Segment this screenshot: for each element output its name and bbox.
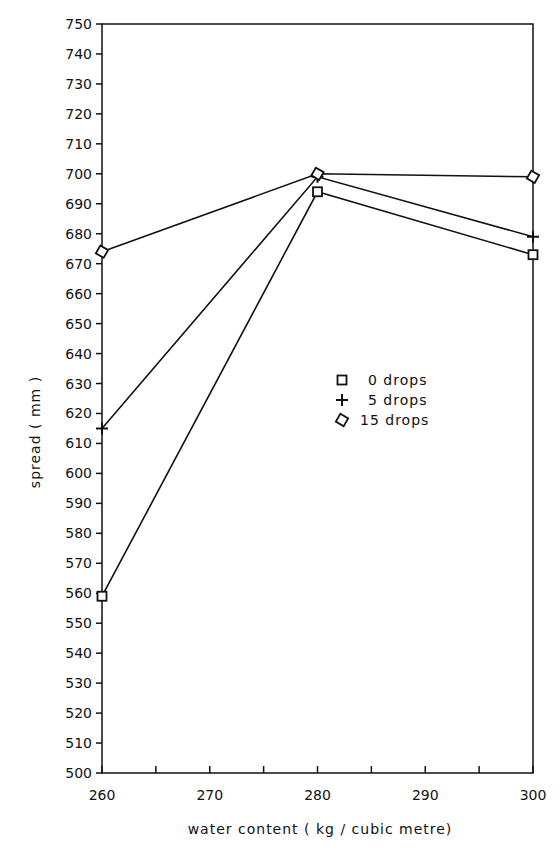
line-chart: 5005105205305405505605705805906006106206… — [0, 0, 560, 860]
legend: 0 drops5 drops15 drops — [336, 372, 430, 428]
plus-marker — [336, 394, 348, 406]
series-5-drops — [102, 177, 533, 429]
y-tick-label: 600 — [65, 465, 92, 481]
series-15-drops — [102, 174, 533, 252]
y-tick-label: 710 — [65, 136, 92, 152]
y-tick-label: 640 — [65, 346, 92, 362]
legend-label: 5 drops — [368, 392, 427, 408]
axes — [102, 24, 533, 773]
x-tick-label: 300 — [520, 787, 547, 803]
y-tick-label: 730 — [65, 76, 92, 92]
y-tick-label: 630 — [65, 376, 92, 392]
y-tick-label: 580 — [65, 525, 92, 541]
x-axis-title: water content ( kg / cubic metre) — [188, 821, 453, 837]
y-tick-label: 660 — [65, 286, 92, 302]
x-tick-label: 260 — [89, 787, 116, 803]
series-line — [102, 174, 533, 252]
y-tick-label: 680 — [65, 226, 92, 242]
legend-item: 5 drops — [336, 392, 427, 408]
y-tick-label: 500 — [65, 765, 92, 781]
y-tick-label: 590 — [65, 495, 92, 511]
plus-marker — [527, 231, 539, 243]
y-tick-label: 530 — [65, 675, 92, 691]
y-tick-label: 620 — [65, 405, 92, 421]
diamond-marker — [527, 171, 539, 183]
square-marker — [529, 250, 538, 259]
series-markers — [98, 187, 538, 600]
series-line — [102, 192, 533, 596]
y-tick-label: 570 — [65, 555, 92, 571]
y-tick-label: 510 — [65, 735, 92, 751]
y-tick-label: 520 — [65, 705, 92, 721]
x-tick-label: 280 — [304, 787, 331, 803]
y-tick-label: 610 — [65, 435, 92, 451]
y-axis-ticks: 5005105205305405505605705805906006106206… — [65, 16, 102, 781]
x-tick-label: 270 — [196, 787, 223, 803]
x-axis-ticks: 260270280290300 — [89, 766, 547, 803]
y-axis-title: spread ( mm ) — [27, 376, 43, 488]
y-tick-label: 670 — [65, 256, 92, 272]
y-tick-label: 740 — [65, 46, 92, 62]
series-line — [102, 177, 533, 429]
y-tick-label: 700 — [65, 166, 92, 182]
legend-label: 15 drops — [360, 412, 429, 428]
y-tick-label: 720 — [65, 106, 92, 122]
plot-frame — [102, 24, 533, 773]
series-0-drops — [102, 192, 533, 596]
series-markers — [96, 171, 539, 435]
y-tick-label: 560 — [65, 585, 92, 601]
square-marker — [313, 187, 322, 196]
diamond-marker — [336, 414, 348, 426]
square-marker — [98, 592, 107, 601]
x-tick-label: 290 — [412, 787, 439, 803]
square-marker — [338, 376, 347, 385]
y-tick-label: 690 — [65, 196, 92, 212]
diamond-marker — [96, 246, 108, 258]
y-tick-label: 550 — [65, 615, 92, 631]
y-tick-label: 540 — [65, 645, 92, 661]
legend-label: 0 drops — [368, 372, 427, 388]
legend-item: 0 drops — [338, 372, 428, 388]
data-series — [96, 168, 539, 601]
legend-item: 15 drops — [336, 412, 430, 428]
y-tick-label: 750 — [65, 16, 92, 32]
y-tick-label: 650 — [65, 316, 92, 332]
